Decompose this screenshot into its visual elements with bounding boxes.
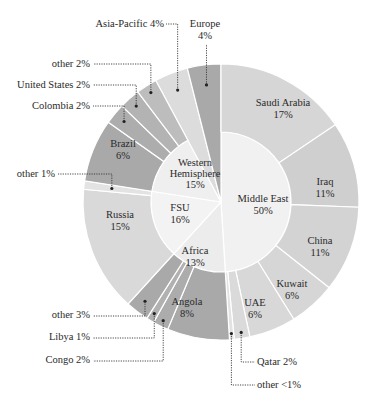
leader-dot [143,300,146,303]
label-africa: Africa [170,245,220,257]
label-saudi-arabia: Saudi Arabia [233,97,333,109]
leader-dot [153,312,156,315]
label-africa-other: other 3% [0,309,90,321]
label-uae-pct: 6% [235,309,275,321]
leader-dot [135,104,138,107]
label-me-other: other <1% [257,379,301,391]
leader-line [231,334,255,385]
label-congo: Congo 2% [0,354,90,366]
label-qatar: Qatar 2% [257,356,297,368]
leader-dot [110,187,113,190]
label-brazil-pct: 6% [98,150,148,162]
leader-dot [149,91,152,94]
label-russia: Russia [95,209,145,221]
label-fsu-pct: 16% [160,214,200,226]
label-uae: UAE [235,297,275,309]
leader-line [93,321,163,361]
label-middle-east-pct: 50% [222,205,304,217]
label-africa-pct: 13% [170,257,220,269]
sunburst-chart: Asia-Pacific 4% Europe 4% other 2% Unite… [0,0,376,409]
label-europe-pct: 4% [185,30,225,42]
label-china-pct: 11% [290,247,350,259]
leader-dot [176,89,179,92]
label-angola: Angola [162,296,212,308]
leader-dot [205,83,208,86]
label-brazil: Brazil [98,138,148,150]
label-iraq-pct: 11% [300,188,350,200]
label-russia-pct: 15% [95,221,145,233]
label-kuwait: Kuwait [262,278,322,290]
label-united-states: United States 2% [0,79,90,91]
label-china: China [290,235,350,247]
label-saudi-arabia-pct: 17% [233,109,333,121]
label-wh-other: other 2% [20,58,90,70]
label-libya: Libya 1% [0,331,90,343]
label-iraq: Iraq [300,176,350,188]
label-asia-pacific: Asia-Pacific 4% [70,18,164,30]
label-wh-pct: 15% [155,179,235,191]
leader-dot [122,120,125,123]
label-colombia: Colombia 2% [0,100,90,112]
leader-dot [230,332,233,335]
label-middle-east: Middle East [222,193,304,205]
label-fsu-other: other 1% [0,168,55,180]
label-angola-pct: 8% [162,308,212,320]
label-europe: Europe [185,18,225,30]
label-fsu: FSU [160,202,200,214]
leader-dot [240,331,243,334]
